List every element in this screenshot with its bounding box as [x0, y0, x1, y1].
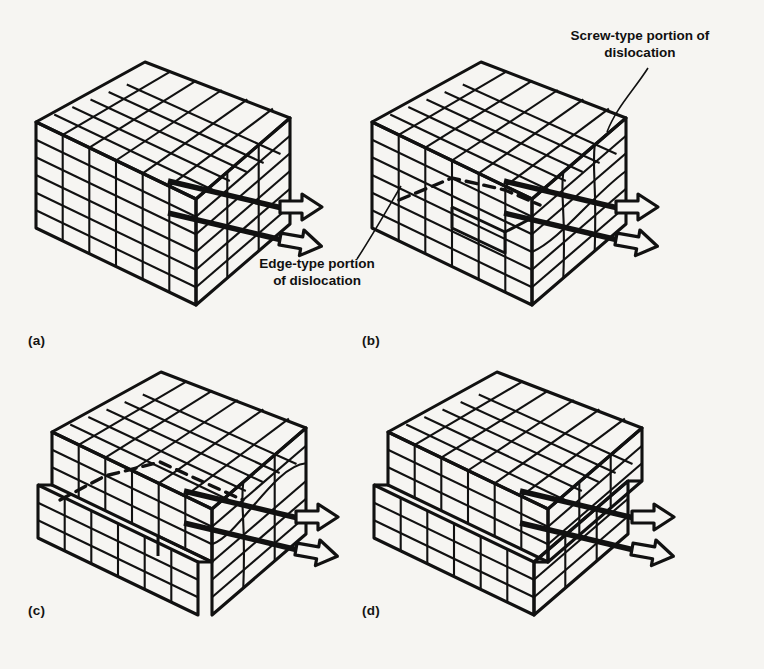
panel-d-front-face-upper — [388, 432, 548, 562]
edge-type-annotation: Edge-type portion of dislocation — [212, 256, 422, 290]
screw-type-annotation: Screw-type portion of dislocation — [528, 28, 752, 62]
panel-c-right-face — [212, 428, 306, 615]
panel-d-front-face-lower — [374, 485, 534, 615]
panel-label-c: (c) — [28, 603, 45, 618]
panel-c — [38, 372, 340, 615]
panel-label-d: (d) — [362, 603, 380, 618]
panel-d-top-face — [388, 372, 642, 509]
panel-d — [374, 372, 676, 615]
panel-label-b: (b) — [362, 333, 380, 348]
panel-b-top-face — [372, 62, 626, 199]
panel-d-block — [374, 372, 642, 615]
panel-c-front-face-lower — [38, 485, 198, 615]
panel-label-a: (a) — [28, 333, 45, 348]
panel-c-stress-arrows — [184, 491, 340, 569]
panel-c-front-face-upper — [52, 432, 212, 562]
dislocation-figure — [0, 0, 764, 669]
panel-a-top-face — [36, 62, 290, 199]
panel-b-right-face — [532, 118, 626, 305]
panel-c-block — [38, 372, 306, 615]
